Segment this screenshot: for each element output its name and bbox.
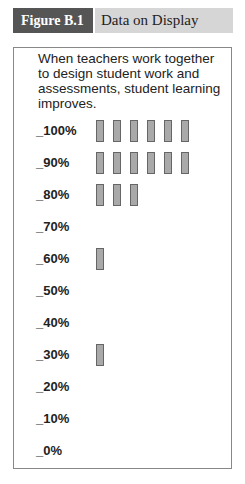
figure-label: Figure B.1 [13, 8, 93, 33]
row-label: _40% [36, 315, 69, 330]
tally-bar [181, 120, 189, 142]
figure-title: Data on Display [95, 8, 233, 33]
tally-bar [164, 152, 172, 174]
row-label: _70% [36, 219, 69, 234]
tally-bar [96, 344, 104, 366]
tally-bar [96, 152, 104, 174]
tally-bar [113, 184, 121, 206]
figure-header: Figure B.1 Data on Display [13, 8, 233, 33]
row-label: _80% [36, 187, 69, 202]
tally-bar [164, 120, 172, 142]
tally-bar [113, 120, 121, 142]
row-label: _50% [36, 283, 69, 298]
chart-caption: When teachers work together to design st… [38, 51, 228, 111]
tally-bar [96, 248, 104, 270]
row-label: _20% [36, 379, 69, 394]
row-label: _10% [36, 411, 69, 426]
tally-bar [130, 152, 138, 174]
tally-bar [96, 120, 104, 142]
tally-bar [181, 152, 189, 174]
row-label: _0% [36, 443, 62, 458]
tally-bar [147, 152, 155, 174]
tally-bar [113, 152, 121, 174]
tally-bar [130, 184, 138, 206]
tally-bar [96, 184, 104, 206]
row-label: _100% [36, 123, 76, 138]
tally-bar [130, 120, 138, 142]
row-label: _60% [36, 251, 69, 266]
row-label: _30% [36, 347, 69, 362]
tally-bar [147, 120, 155, 142]
row-label: _90% [36, 155, 69, 170]
